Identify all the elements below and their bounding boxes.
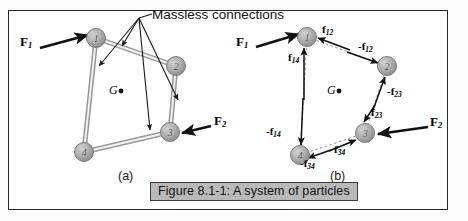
panel-b-force-f14-label: f14 [288, 52, 299, 65]
panel-b-node-3-label: 3 [362, 128, 367, 139]
panel-b-force-F1-subscript: 1 [244, 40, 248, 50]
panel-b-internal-force-arrows [301, 38, 385, 158]
massless-leader-line [139, 14, 152, 18]
panel-b-force-f34-subscript: 34 [338, 148, 346, 157]
massless-connections-annotation: Massless connections [152, 8, 284, 22]
panel-b-force-f14-subscript: 14 [292, 56, 300, 65]
panel-a-force-F1-subscript: 1 [28, 40, 32, 50]
panel-b-force-neg-f23-subscript: 23 [394, 90, 402, 99]
panel-b-node-2-label: 2 [384, 61, 389, 72]
panel-a-node-3-label: 3 [167, 127, 172, 138]
figure-root: Massless connections 1 2 3 4 1 2 3 4 G G… [0, 0, 468, 221]
panel-a-node-4-label: 4 [81, 147, 86, 158]
panel-b-force-f23-label: f23 [371, 107, 382, 120]
panel-a-leader-arrows [99, 18, 178, 130]
panel-b-center-of-mass-dot [337, 89, 342, 94]
panel-b-force-neg-f12-label: -f12 [358, 41, 373, 54]
panel-b-force-neg-f34-subscript: 34 [307, 162, 315, 171]
panel-b-force-f12-subscript: 12 [326, 28, 334, 37]
panel-b-node-1-label: 1 [304, 32, 309, 43]
panel-a-center-of-mass-dot [119, 89, 124, 94]
panel-b-center-of-mass-label: G [327, 84, 336, 96]
panel-b-force-F2-subscript: 2 [438, 120, 442, 130]
panel-b-force-neg-f34-label: -f34 [300, 158, 315, 171]
panel-b-force-F2-symbol: F [430, 114, 438, 129]
panel-a-node-1-label: 1 [93, 33, 98, 44]
panel-a-node-2-label: 2 [173, 61, 178, 72]
panel-b-force-F2-label: F2 [430, 115, 442, 130]
figure-caption: Figure 8.1-1: A system of particles [150, 182, 358, 201]
panel-a-force-F2-symbol: F [214, 113, 222, 128]
panel-a-force-F2-label: F2 [214, 114, 226, 129]
panel-b-external-force-arrows [256, 34, 428, 134]
panel-a-force-F1-symbol: F [20, 34, 28, 49]
panel-b-force-neg-f14-subscript: 14 [273, 130, 281, 139]
panel-b-force-f23-subscript: 23 [375, 111, 383, 120]
panel-b-force-F1-label: F1 [236, 35, 248, 50]
panel-b-force-neg-f12-subscript: 12 [365, 45, 373, 54]
panel-b-force-f34-label: f34 [334, 144, 345, 157]
panel-a-force-F1-label: F1 [20, 35, 32, 50]
panel-a-label: (a) [118, 170, 133, 183]
panel-b-force-F1-symbol: F [236, 34, 244, 49]
panel-b-label: (b) [330, 170, 345, 183]
panel-b-force-neg-f14-label: -f14 [266, 126, 281, 139]
panel-b-force-neg-f23-label: -f23 [387, 86, 402, 99]
panel-a-force-F2-subscript: 2 [222, 119, 226, 129]
panel-a-center-of-mass-label: G [109, 84, 118, 96]
panel-b-force-f12-label: f12 [322, 24, 333, 37]
